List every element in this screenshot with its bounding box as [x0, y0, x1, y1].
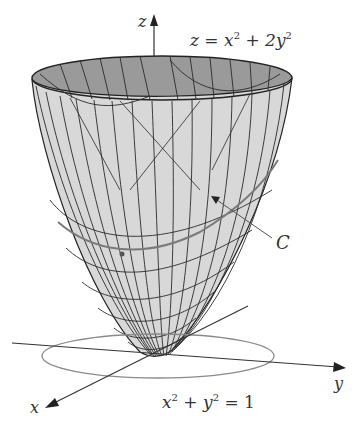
curve-c-point — [120, 252, 125, 257]
z-axis-label: z — [138, 12, 146, 31]
paraboloid-diagram — [0, 0, 364, 428]
bowl-outer-surface — [32, 78, 292, 356]
eq-term1: x — [224, 30, 234, 50]
x-axis-label: x — [30, 398, 39, 417]
circle-term1: x — [162, 392, 172, 412]
z-axis-arrowhead-icon — [150, 14, 158, 26]
circle-equation: x2 + y2 = 1 — [162, 392, 255, 412]
curve-c-label: C — [276, 232, 290, 253]
paraboloid-figure: z z = x2 + 2y2 C y x x2 + y2 = 1 — [0, 0, 364, 428]
eq-exp2: 2 — [285, 30, 291, 41]
y-axis-arrowhead-icon — [333, 362, 346, 372]
circle-plus: + — [178, 392, 203, 412]
circle-term2: y — [203, 392, 213, 412]
eq-term2: 2y — [265, 30, 285, 50]
eq-lhs: z — [190, 30, 199, 50]
y-axis-label: y — [334, 374, 343, 393]
eq-equals: = — [199, 30, 224, 50]
surface-equation: z = x2 + 2y2 — [190, 30, 292, 50]
x-axis-arrowhead-icon — [45, 398, 59, 408]
eq-plus: + — [240, 30, 265, 50]
circle-rhs: = 1 — [219, 392, 255, 412]
